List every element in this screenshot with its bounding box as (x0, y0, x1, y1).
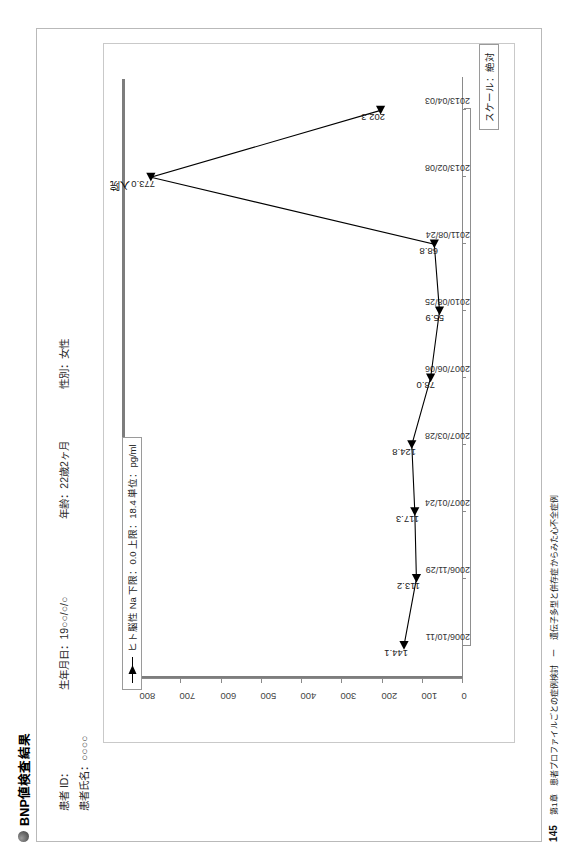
page-footer: 145第1章 患者プロファイルごとの症例検討 ー 遺伝子多型と併存症からみた心不… (548, 495, 559, 842)
chart-frame: 0100200300400500600700800 2006/10/112006… (103, 43, 515, 743)
admission-annotation: 入院 (110, 179, 130, 194)
data-point-value-label: 124.8 (392, 447, 416, 458)
age-label: 年齢： (58, 489, 70, 519)
legend-label: ヒト脳性 Na 下限：0.0 上限：18.4 単位：pg/ml (125, 444, 139, 652)
data-point-value-label: 202.3 (361, 112, 385, 123)
document-page: BNP値検査結果 患者 ID：生年月日：19○○/○/○年齢：22歳2ヶ月性別：… (0, 0, 568, 864)
patient-name-value: ○○○○ (78, 736, 90, 761)
rotated-page-wrapper: BNP値検査結果 患者 ID：生年月日：19○○/○/○年齢：22歳2ヶ月性別：… (0, 0, 568, 864)
data-point-value-label: 773.0 (131, 179, 155, 190)
sex-value: 女性 (58, 339, 70, 359)
patient-info: 患者 ID：生年月日：19○○/○/○年齢：22歳2ヶ月性別：女性 患者氏名：○… (55, 339, 95, 811)
report-card: 患者 ID：生年月日：19○○/○/○年齢：22歳2ヶ月性別：女性 患者氏名：○… (36, 28, 542, 842)
patient-info-row-2: 患者氏名：○○○○ (75, 339, 95, 811)
data-series-line (104, 42, 516, 742)
page-title: BNP値検査結果 (14, 733, 33, 842)
age-value: 22歳2ヶ月 (58, 441, 70, 489)
data-point-value-label: 78.0 (416, 380, 435, 391)
page-number: 145 (548, 825, 559, 842)
sex-label: 性別： (58, 359, 70, 389)
patient-id-label: 患者 ID： (58, 768, 70, 811)
footer-text: 第1章 患者プロファイルごとの症例検討 ー 遺伝子多型と併存症からみた心不全症例 (550, 495, 559, 815)
chart-legend: ヒト脳性 Na 下限：0.0 上限：18.4 単位：pg/ml (122, 437, 142, 690)
birth-value: 19○○/○/○ (58, 597, 70, 640)
data-point-value-label: 117.3 (396, 514, 419, 525)
legend-marker-icon (128, 657, 137, 683)
patient-name-label: 患者氏名： (78, 761, 90, 811)
series-polyline (151, 110, 440, 645)
data-point-value-label: 55.9 (425, 313, 444, 324)
x-axis-title: スケール：絶対 (479, 44, 499, 130)
data-point-value-label: 113.2 (397, 581, 420, 592)
patient-info-row-1: 患者 ID：生年月日：19○○/○/○年齢：22歳2ヶ月性別：女性 (55, 339, 75, 811)
bullet-icon (18, 831, 29, 842)
birth-label: 生年月日： (58, 640, 70, 690)
data-point-value-label: 68.8 (420, 246, 439, 257)
page-title-text: BNP値検査結果 (14, 733, 33, 826)
data-point-value-label: 144.1 (384, 648, 408, 659)
